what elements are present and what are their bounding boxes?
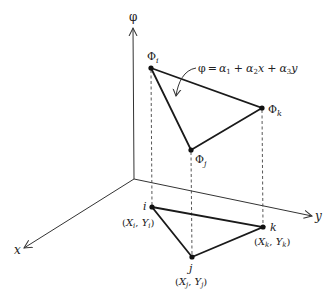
projection-line-j xyxy=(191,152,192,256)
node-i xyxy=(149,204,154,209)
node-i-coords: (Xi, Yi) xyxy=(122,217,155,230)
node-k xyxy=(260,224,265,229)
node-k-coords: (Xk, Yk) xyxy=(254,236,291,249)
equation-pointer-arrow xyxy=(176,68,196,96)
phi-axis-label: φ xyxy=(129,10,137,24)
y-axis xyxy=(134,179,312,216)
projection-line-k xyxy=(262,110,263,226)
node-phi-k xyxy=(259,105,264,110)
node-j-coords: (Xj, Yj) xyxy=(175,276,207,289)
node-j xyxy=(189,254,194,259)
x-axis-label: x xyxy=(14,243,21,257)
triangular-element-diagram: φ x y Φi Φk Φj φ=α1+α2x+α3y xyxy=(0,0,332,300)
x-axis xyxy=(24,179,134,248)
equation-text: φ=α1+α2x+α3y xyxy=(198,62,298,76)
phi-axis xyxy=(133,28,134,179)
node-j-label: j xyxy=(186,262,193,275)
node-phi-j xyxy=(188,147,193,152)
node-phi-i xyxy=(148,65,153,70)
node-k-label: k xyxy=(270,221,277,234)
interpolation-equation: φ=α1+α2x+α3y xyxy=(176,62,298,96)
phi-surface-triangle xyxy=(151,68,262,150)
projection-line-i xyxy=(151,70,152,206)
axes: φ x y xyxy=(14,10,322,257)
element-triangle xyxy=(152,207,263,257)
phi-k-label: Φk xyxy=(268,103,282,118)
phi-i-label: Φi xyxy=(147,50,159,65)
phi-j-label: Φj xyxy=(195,153,207,168)
node-i-label: i xyxy=(143,200,147,213)
lower-triangle: i k j (Xi, Yi) (Xk, Yk) (Xj, Yj) xyxy=(122,200,291,289)
y-axis-label: y xyxy=(314,209,322,223)
